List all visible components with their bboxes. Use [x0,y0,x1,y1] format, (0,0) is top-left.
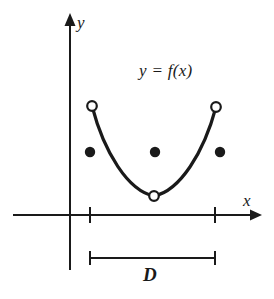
open-circle-right-endpoint [211,102,221,112]
open-circle-left-endpoint [87,101,97,111]
filled-dot-left [85,147,95,157]
domain-interval-label: D [143,265,157,284]
filled-dot-middle [150,147,160,157]
function-equation-label: y = f(x) [139,62,193,79]
x-axis-arrowhead [250,210,262,221]
y-axis-label: y [77,14,85,31]
y-axis-arrowhead [65,13,76,26]
open-circle-vertex [149,191,159,201]
filled-dot-right [215,147,225,157]
figure-graphics [0,0,274,299]
x-axis-label: x [243,192,251,209]
figure-canvas: y x y = f(x) D [0,0,274,299]
